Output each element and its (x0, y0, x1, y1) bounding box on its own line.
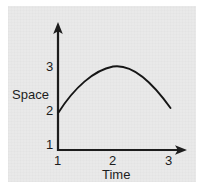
y-axis-title: Space (12, 88, 49, 101)
figure-screenshot: 3 2 1 1 2 3 Space Time (0, 0, 202, 193)
y-tick-label-1: 1 (46, 138, 53, 151)
data-curve (59, 66, 171, 112)
x-axis-title: Time (102, 168, 130, 181)
y-tick-label-2: 2 (46, 104, 53, 117)
x-tick-label-2: 2 (109, 154, 116, 167)
x-tick-label-1: 1 (54, 154, 61, 167)
y-tick-label-3: 3 (46, 60, 53, 73)
x-tick-label-3: 3 (165, 154, 172, 167)
